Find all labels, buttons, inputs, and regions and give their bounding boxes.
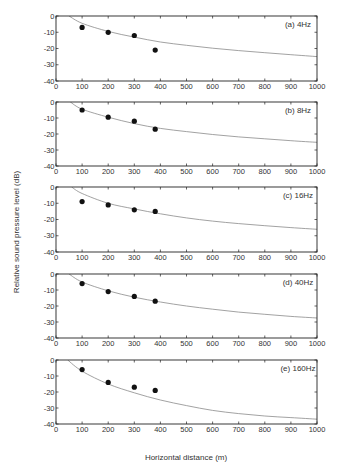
panel-c: 010020030040050060070080090010000-10-20-… xyxy=(44,183,326,262)
data-point xyxy=(153,127,158,132)
x-tick-label: 200 xyxy=(102,425,115,434)
x-tick-label: 900 xyxy=(285,425,298,434)
x-tick-label: 400 xyxy=(154,339,167,348)
x-tick-label: 1000 xyxy=(309,425,326,434)
x-tick-label: 500 xyxy=(180,82,193,91)
data-point xyxy=(153,388,158,393)
data-point xyxy=(153,299,158,304)
y-tick-label: -40 xyxy=(44,248,55,257)
x-tick-label: 700 xyxy=(232,339,245,348)
y-tick-label: -30 xyxy=(44,60,55,69)
y-axis-title: Relative sound pressure level (dB) xyxy=(12,171,21,294)
y-tick-label: -30 xyxy=(44,146,55,155)
data-point xyxy=(153,209,158,214)
x-tick-label: 500 xyxy=(180,253,193,262)
panel-label: (e) 160Hz xyxy=(280,364,315,373)
plot-frame xyxy=(56,187,317,252)
data-point xyxy=(106,115,111,120)
y-tick-label: 0 xyxy=(50,356,54,365)
data-point xyxy=(132,207,137,212)
x-tick-label: 800 xyxy=(259,253,272,262)
y-tick-label: -40 xyxy=(44,420,55,429)
x-tick-label: 300 xyxy=(128,167,141,176)
y-tick-label: -20 xyxy=(44,302,55,311)
x-tick-label: 600 xyxy=(206,82,219,91)
y-tick-label: -30 xyxy=(44,404,55,413)
data-point xyxy=(132,294,137,299)
x-tick-label: 700 xyxy=(232,253,245,262)
model-curve xyxy=(69,274,317,318)
x-tick-label: 900 xyxy=(285,82,298,91)
x-tick-label: 300 xyxy=(128,253,141,262)
y-tick-label: -10 xyxy=(44,372,55,381)
x-tick-label: 500 xyxy=(180,425,193,434)
x-tick-label: 100 xyxy=(76,167,89,176)
y-tick-label: -10 xyxy=(44,28,55,37)
x-tick-label: 100 xyxy=(76,253,89,262)
data-point xyxy=(80,281,85,286)
data-point xyxy=(106,289,111,294)
figure: 010020030040050060070080090010000-10-20-… xyxy=(0,0,340,476)
plot-frame xyxy=(56,16,317,81)
y-tick-label: -30 xyxy=(44,231,55,240)
y-tick-label: -30 xyxy=(44,318,55,327)
x-tick-label: 900 xyxy=(285,253,298,262)
x-tick-label: 700 xyxy=(232,425,245,434)
data-point xyxy=(153,48,158,53)
data-point xyxy=(132,119,137,124)
x-tick-label: 800 xyxy=(259,82,272,91)
x-tick-label: 600 xyxy=(206,253,219,262)
x-tick-label: 0 xyxy=(54,425,58,434)
y-tick-label: -40 xyxy=(44,334,55,343)
data-point xyxy=(80,367,85,372)
y-tick-label: 0 xyxy=(50,12,54,21)
x-tick-label: 500 xyxy=(180,167,193,176)
x-tick-label: 600 xyxy=(206,339,219,348)
x-tick-label: 300 xyxy=(128,425,141,434)
x-tick-label: 700 xyxy=(232,82,245,91)
data-point xyxy=(106,380,111,385)
data-point xyxy=(80,107,85,112)
x-tick-label: 500 xyxy=(180,339,193,348)
y-tick-label: -20 xyxy=(44,130,55,139)
data-point xyxy=(106,30,111,35)
y-tick-label: -20 xyxy=(44,44,55,53)
x-tick-label: 0 xyxy=(54,82,58,91)
x-axis-title: Horizontal distance (m) xyxy=(145,453,228,462)
x-tick-label: 800 xyxy=(259,339,272,348)
panel-label: (c) 16Hz xyxy=(283,191,313,200)
x-tick-label: 0 xyxy=(54,253,58,262)
y-tick-label: 0 xyxy=(50,183,54,192)
model-curve xyxy=(72,187,317,229)
x-tick-label: 100 xyxy=(76,82,89,91)
model-curve xyxy=(69,16,317,57)
panel-b: 010020030040050060070080090010000-10-20-… xyxy=(44,98,326,176)
x-tick-label: 200 xyxy=(102,82,115,91)
x-tick-label: 1000 xyxy=(309,339,326,348)
y-tick-label: -40 xyxy=(44,77,55,86)
x-tick-label: 800 xyxy=(259,425,272,434)
panels-container: 010020030040050060070080090010000-10-20-… xyxy=(44,12,326,434)
x-tick-label: 600 xyxy=(206,425,219,434)
plot-frame xyxy=(56,360,317,424)
data-point xyxy=(132,385,137,390)
y-tick-label: -10 xyxy=(44,199,55,208)
y-tick-label: -40 xyxy=(44,162,55,171)
data-point xyxy=(80,25,85,30)
x-tick-label: 300 xyxy=(128,82,141,91)
x-tick-label: 400 xyxy=(154,82,167,91)
y-tick-label: -10 xyxy=(44,114,55,123)
x-tick-label: 900 xyxy=(285,167,298,176)
panel-d: 010020030040050060070080090010000-10-20-… xyxy=(44,270,326,348)
y-tick-label: -10 xyxy=(44,286,55,295)
x-tick-label: 400 xyxy=(154,425,167,434)
plot-frame xyxy=(56,102,317,166)
x-tick-label: 100 xyxy=(76,339,89,348)
panel-label: (a) 4Hz xyxy=(285,20,311,29)
y-tick-label: 0 xyxy=(50,270,54,279)
x-tick-label: 600 xyxy=(206,167,219,176)
x-tick-label: 300 xyxy=(128,339,141,348)
data-point xyxy=(106,202,111,207)
y-tick-label: 0 xyxy=(50,98,54,107)
x-tick-label: 400 xyxy=(154,253,167,262)
